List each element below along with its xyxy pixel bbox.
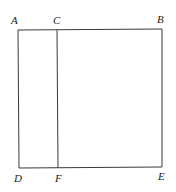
point-label-e: E <box>157 170 165 182</box>
point-label-a: A <box>10 14 18 26</box>
point-label-f: F <box>54 172 62 184</box>
segment-ed <box>19 167 162 168</box>
point-label-b: B <box>157 13 164 25</box>
point-label-d: D <box>13 172 22 184</box>
point-label-c: C <box>53 14 61 26</box>
geometry-diagram: A C B D F E <box>0 0 176 192</box>
segment-da <box>18 30 19 168</box>
segment-cf <box>57 30 58 168</box>
segment-ab <box>18 29 162 30</box>
